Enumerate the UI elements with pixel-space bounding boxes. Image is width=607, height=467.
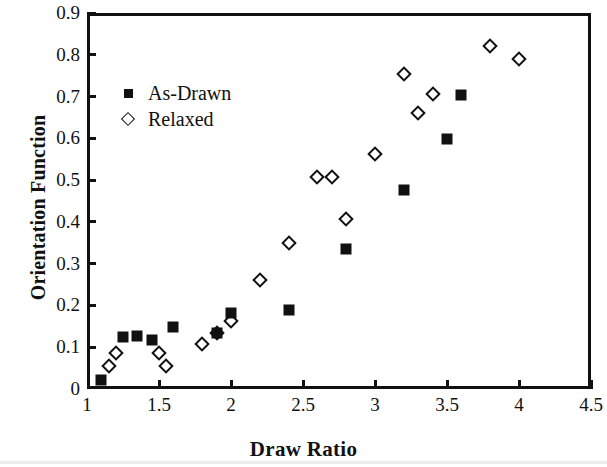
data-point-square [398,184,409,195]
y-tick [87,179,96,182]
data-point-square [341,244,352,255]
x-tick-label: 2 [201,395,261,414]
data-point-square [146,334,157,345]
data-point-square [96,374,107,385]
x-tick-label: 4.5 [561,395,607,414]
y-tick-label: 0.9 [28,3,80,22]
x-tick [518,380,521,389]
x-tick [230,380,233,389]
y-tick [87,304,96,307]
open-diamond-icon [119,112,141,126]
x-tick-label: 1.5 [129,395,189,414]
data-point-square [118,331,129,342]
scatter-chart-figure: 00.10.20.30.40.50.60.70.80.9 11.522.533.… [0,0,607,467]
y-tick [87,262,96,265]
x-tick [590,380,593,389]
legend-label-as-drawn: As-Drawn [148,83,231,103]
y-tick [87,12,96,15]
plot-frame-border [87,13,591,389]
y-tick-label: 0.1 [28,337,80,356]
chart-legend: As-Drawn Relaxed [119,80,231,132]
data-point-square [132,330,143,341]
x-axis-title: Draw Ratio [0,437,607,462]
x-tick [302,380,305,389]
x-tick-label: 4 [489,395,549,414]
data-point-square [283,305,294,316]
y-tick-label: 0.8 [28,45,80,64]
legend-label-relaxed: Relaxed [148,109,214,129]
y-tick [87,346,96,349]
data-point-square [168,322,179,333]
y-tick [87,137,96,140]
legend-item-relaxed: Relaxed [119,106,231,132]
y-tick [87,220,96,223]
y-axis-title: Orientation Function [27,88,50,328]
scan-artifact [0,461,607,464]
legend-item-as-drawn: As-Drawn [119,80,231,106]
x-tick [446,380,449,389]
data-point-square [442,134,453,145]
x-tick-label: 1 [57,395,117,414]
data-point-square [456,90,467,101]
filled-square-icon [119,86,141,100]
x-tick-label: 3 [345,395,405,414]
x-tick [374,380,377,389]
x-tick [158,380,161,389]
y-tick [87,95,96,98]
y-tick [87,53,96,56]
x-tick-label: 3.5 [417,395,477,414]
x-tick-label: 2.5 [273,395,333,414]
